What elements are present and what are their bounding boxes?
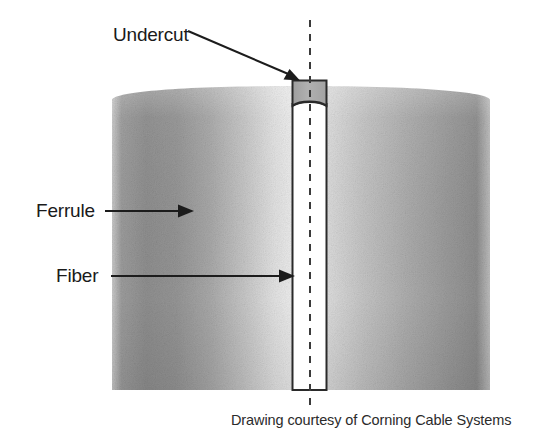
undercut-label: Undercut xyxy=(113,24,189,45)
ferrule-label: Ferrule xyxy=(36,200,95,221)
undercut-arrow-icon xyxy=(284,69,301,81)
figure-caption: Drawing courtesy of Corning Cable System… xyxy=(231,412,511,428)
undercut-callout: Undercut xyxy=(113,24,300,81)
ferrule-diagram: Undercut Ferrule Fiber Drawing courtesy … xyxy=(0,0,536,435)
figure-container: Undercut Ferrule Fiber Drawing courtesy … xyxy=(0,0,536,435)
undercut-leader-line xyxy=(188,31,293,76)
fiber-label: Fiber xyxy=(56,265,99,286)
